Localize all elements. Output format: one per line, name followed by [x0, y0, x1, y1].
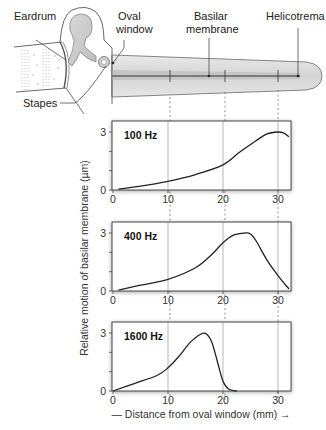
x-tick-label: 30: [272, 193, 284, 205]
label-oval-window-2: window: [115, 23, 153, 35]
x-tick-label: 30: [272, 394, 284, 406]
x-axis-label: — Distance from oval window (mm) →: [111, 408, 290, 420]
ear-canal: [14, 42, 68, 92]
label-helicotrema: Helicotrema: [266, 10, 326, 22]
plot-1600-hz: 0301020301600 Hz: [100, 322, 291, 406]
label-membrane: membrane: [186, 23, 239, 35]
frequency-label: 400 Hz: [124, 230, 157, 242]
x-tick-label: 20: [217, 193, 229, 205]
plot-400-hz: 030102030400 Hz: [100, 222, 291, 306]
plots: 030102030100 Hz030102030400 Hz0301020301…: [100, 121, 291, 406]
plot-100-hz: 030102030100 Hz: [100, 121, 291, 205]
x-tick-label: 20: [217, 294, 229, 306]
frequency-label: 1600 Hz: [124, 330, 163, 342]
x-tick-label: 10: [162, 394, 174, 406]
x-tick-label: 0: [110, 294, 116, 306]
x-tick-label: 10: [162, 193, 174, 205]
label-oval-window: Oval: [118, 10, 141, 22]
y-tick-label: 3: [100, 126, 106, 138]
y-tick-label: 3: [100, 227, 106, 239]
x-tick-label: 0: [110, 394, 116, 406]
y-tick-label: 0: [100, 184, 106, 196]
x-tick-label: 30: [272, 294, 284, 306]
ossicles: [68, 14, 110, 68]
x-tick-label: 20: [217, 394, 229, 406]
y-tick-label: 0: [100, 285, 106, 297]
x-tick-label: 10: [162, 294, 174, 306]
y-axis-label: Relative motion of basilar membrane (µm): [78, 160, 90, 356]
cochlea: [112, 55, 322, 97]
frequency-label: 100 Hz: [124, 129, 157, 141]
label-stapes: Stapes: [23, 97, 58, 109]
x-tick-label: 0: [110, 193, 116, 205]
y-tick-label: 3: [100, 327, 106, 339]
label-basilar: Basilar: [194, 10, 228, 22]
cochlea-figure: Eardrum Oval window Basilar membrane Hel…: [0, 0, 326, 430]
label-eardrum: Eardrum: [14, 10, 56, 22]
y-tick-label: 0: [100, 385, 106, 397]
